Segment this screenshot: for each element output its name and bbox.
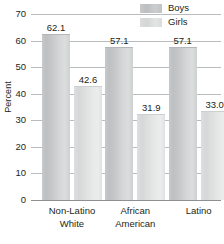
y-tick-label-20: 20 [2, 142, 26, 152]
y-tick-label-30: 30 [2, 115, 26, 125]
legend-swatch-girls-icon [140, 18, 162, 27]
bar-value-label: 42.6 [71, 75, 105, 85]
bar-value-label: 33.0 [198, 100, 224, 110]
bar-girls-2 [201, 111, 224, 200]
bar-value-label: 57.1 [102, 36, 136, 46]
bar-boys-0 [42, 34, 70, 200]
x-category-line: American [92, 218, 178, 231]
x-category-line: Latino [156, 205, 224, 218]
bar-boys-2 [169, 47, 197, 200]
y-tick-label-60: 60 [2, 36, 26, 46]
bar-group: 62.142.6 [42, 14, 102, 200]
y-tick-label-70: 70 [2, 9, 26, 19]
bar-group: 57.131.9 [105, 14, 165, 200]
bar-group: 57.133.0 [169, 14, 224, 200]
bar-girls-1 [137, 114, 165, 200]
plot-area: 706050403020100 62.142.657.131.957.133.0 [31, 14, 221, 200]
y-tick-label-0: 0 [2, 195, 26, 205]
x-axis-categories: Non-LatinoWhiteAfricanAmericanLatino [31, 205, 221, 241]
legend-item-boys: Boys [140, 2, 224, 14]
legend-label-boys: Boys [168, 3, 189, 13]
y-tick-label-10: 10 [2, 168, 26, 178]
gridline-0 [31, 200, 221, 201]
legend: Boys Girls [140, 2, 224, 30]
y-tick-label-40: 40 [2, 89, 26, 99]
bar-value-label: 31.9 [134, 103, 168, 113]
bar-boys-1 [105, 47, 133, 200]
x-category-label: Latino [156, 205, 224, 218]
legend-swatch-boys-icon [140, 4, 162, 13]
legend-item-girls: Girls [140, 16, 224, 28]
bar-girls-0 [74, 86, 102, 200]
bar-series-container: 62.142.657.131.957.133.0 [31, 14, 221, 200]
legend-label-girls: Girls [168, 17, 188, 27]
y-tick-label-50: 50 [2, 62, 26, 72]
bar-value-label: 62.1 [39, 23, 73, 33]
bar-value-label: 57.1 [166, 36, 200, 46]
bar-chart: Percent 706050403020100 62.142.657.131.9… [0, 0, 224, 244]
